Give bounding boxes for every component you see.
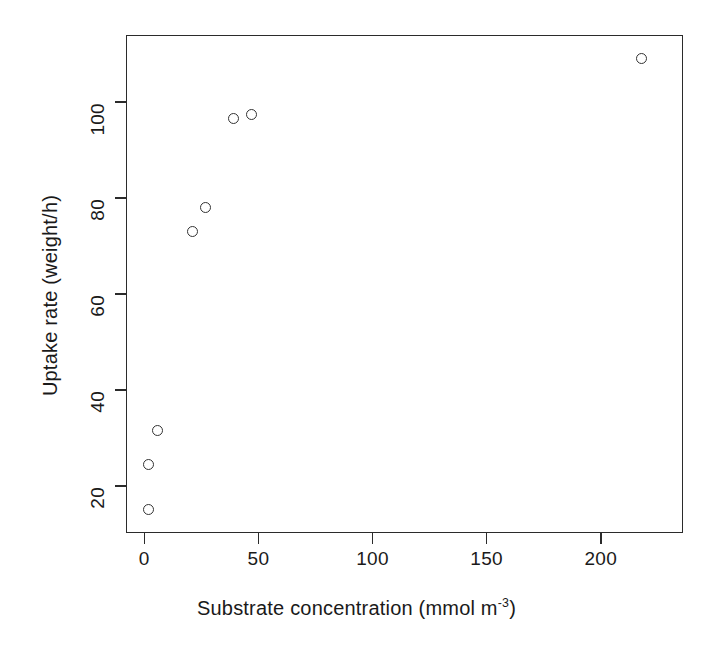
x-axis-tick-label: 150 [452, 548, 522, 570]
plot-frame [126, 35, 683, 533]
x-axis-tick [144, 533, 145, 544]
x-axis-tick [486, 533, 487, 544]
x-axis-title-exponent: -3 [498, 596, 509, 610]
x-axis-tick [600, 533, 601, 544]
x-axis-title-main: Substrate concentration (mmol m [197, 597, 498, 619]
x-axis-tick-label: 0 [109, 548, 179, 570]
x-axis-tick [372, 533, 373, 544]
y-axis-tick [115, 197, 126, 198]
y-axis-tick-label: 100 [87, 103, 109, 213]
scatter-plot-figure: Substrate concentration (mmol m-3) Uptak… [0, 0, 713, 652]
y-axis-tick [115, 293, 126, 294]
x-axis-tick-label: 100 [338, 548, 408, 570]
y-axis-tick [115, 101, 126, 102]
y-axis-tick-label: 80 [87, 199, 109, 309]
x-axis-title: Substrate concentration (mmol m-3) [0, 597, 713, 620]
y-axis-title: Uptake rate (weight/h) [39, 46, 62, 546]
x-axis-tick-label: 50 [223, 548, 293, 570]
x-axis-tick [258, 533, 259, 544]
y-axis-tick [115, 485, 126, 486]
y-axis-tick-label: 60 [87, 295, 109, 405]
y-axis-tick-label: 40 [87, 391, 109, 501]
y-axis-tick-label: 20 [87, 487, 109, 597]
x-axis-title-tail: ) [509, 597, 516, 619]
x-axis-tick-label: 200 [566, 548, 636, 570]
y-axis-tick [115, 389, 126, 390]
